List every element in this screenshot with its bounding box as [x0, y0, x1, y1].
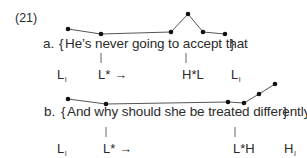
tone-b-prenuclear-accent: L* → — [103, 141, 132, 156]
example-b-open-brace: { — [61, 104, 65, 119]
pitch-point — [169, 30, 174, 35]
tone-b-final-boundary: HI — [284, 141, 296, 157]
tone-b-initial-boundary: LI — [57, 141, 67, 157]
pitch-point — [273, 82, 278, 87]
tone-a-nuclear-accent: H*L — [182, 67, 204, 82]
tone-a-initial-boundary: LI — [57, 67, 67, 83]
tone-a-final-boundary: LI — [231, 67, 241, 83]
example-b-label: b. — [44, 104, 55, 119]
pitch-point — [257, 92, 262, 97]
pitch-contour-diagram — [0, 0, 307, 158]
pitch-point — [66, 27, 71, 32]
example-a-label: a. — [43, 36, 54, 51]
example-b-sentence: And why should she be treated differentl… — [67, 104, 307, 119]
pitch-point — [186, 12, 191, 17]
example-a-close-brace: } — [230, 36, 234, 51]
tone-a-prenuclear-accent: L* → — [98, 67, 127, 82]
pitch-point — [201, 30, 206, 35]
pitch-point — [66, 97, 71, 102]
example-a-sentence: He’s never going to accept that — [65, 36, 248, 51]
example-b-close-brace: } — [283, 104, 287, 119]
tone-b-nuclear-accent: L*H — [233, 141, 255, 156]
example-a-open-brace: { — [59, 36, 63, 51]
